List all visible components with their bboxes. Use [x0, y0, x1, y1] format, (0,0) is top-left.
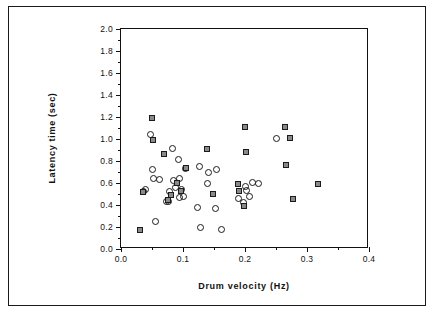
y-tick-label: 0.8 — [100, 156, 113, 166]
y-tick-mark — [116, 51, 121, 52]
data-point-circle — [218, 226, 225, 233]
data-point-circle — [273, 135, 280, 142]
y-tick-mark — [116, 73, 121, 74]
y-tick-mark — [116, 139, 121, 140]
data-point-square — [150, 137, 156, 143]
y-minor-tick-mark — [118, 172, 121, 173]
x-tick-label: 0.0 — [115, 254, 128, 264]
x-tick-mark — [183, 247, 184, 252]
data-point-square — [241, 203, 247, 209]
y-tick-mark — [116, 161, 121, 162]
data-point-circle — [246, 193, 253, 200]
figure-container: Latency time (sec) Drum velocity (Hz) 0.… — [0, 0, 434, 315]
data-point-square — [282, 124, 288, 130]
y-tick-mark — [116, 227, 121, 228]
data-point-circle — [213, 166, 220, 173]
data-point-circle — [175, 156, 182, 163]
data-point-circle — [194, 204, 201, 211]
data-point-square — [210, 191, 216, 197]
x-minor-tick-mark — [152, 247, 153, 250]
data-point-square — [168, 192, 174, 198]
data-point-square — [183, 165, 189, 171]
y-tick-mark — [116, 95, 121, 96]
data-point-circle — [205, 169, 212, 176]
x-tick-label: 0.1 — [177, 254, 190, 264]
data-point-square — [235, 181, 241, 187]
data-point-square — [137, 227, 143, 233]
x-minor-tick-mark — [214, 247, 215, 250]
data-point-square — [290, 196, 296, 202]
x-minor-tick-mark — [338, 247, 339, 250]
data-point-square — [283, 162, 289, 168]
y-tick-label: 0.0 — [100, 244, 113, 254]
y-tick-label: 1.8 — [100, 46, 113, 56]
x-tick-mark — [245, 247, 246, 252]
data-point-circle — [169, 145, 176, 152]
data-point-circle — [212, 205, 219, 212]
y-tick-label: 1.4 — [100, 90, 113, 100]
data-point-square — [161, 151, 167, 157]
y-minor-tick-mark — [118, 62, 121, 63]
y-tick-mark — [116, 183, 121, 184]
data-point-circle — [197, 224, 204, 231]
y-minor-tick-mark — [118, 84, 121, 85]
x-tick-label: 0.4 — [363, 254, 376, 264]
y-tick-label: 1.0 — [100, 134, 113, 144]
x-tick-mark — [121, 247, 122, 252]
y-tick-label: 1.2 — [100, 112, 113, 122]
y-tick-label: 2.0 — [100, 24, 113, 34]
data-point-square — [149, 115, 155, 121]
data-point-circle — [180, 193, 187, 200]
y-tick-mark — [116, 117, 121, 118]
y-axis-title: Latency time (sec) — [44, 28, 60, 248]
y-minor-tick-mark — [118, 216, 121, 217]
data-point-square — [243, 149, 249, 155]
x-tick-label: 0.3 — [301, 254, 314, 264]
x-minor-tick-mark — [276, 247, 277, 250]
data-point-square — [236, 188, 242, 194]
data-point-square — [140, 189, 146, 195]
x-tick-mark — [307, 247, 308, 252]
y-minor-tick-mark — [118, 106, 121, 107]
x-tick-mark — [369, 247, 370, 252]
y-minor-tick-mark — [118, 194, 121, 195]
y-minor-tick-mark — [118, 40, 121, 41]
data-point-square — [315, 181, 321, 187]
data-point-square — [204, 146, 210, 152]
data-point-circle — [255, 180, 262, 187]
data-point-circle — [204, 180, 211, 187]
y-tick-mark — [116, 205, 121, 206]
data-point-square — [287, 135, 293, 141]
x-tick-label: 0.2 — [239, 254, 252, 264]
data-point-circle — [196, 163, 203, 170]
data-point-square — [174, 180, 180, 186]
y-tick-label: 0.4 — [100, 200, 113, 210]
data-point-square — [242, 124, 248, 130]
y-minor-tick-mark — [118, 150, 121, 151]
plot-area: 0.00.20.40.60.81.01.21.41.61.82.00.00.10… — [120, 28, 368, 248]
data-point-circle — [149, 166, 156, 173]
y-tick-mark — [116, 29, 121, 30]
y-tick-label: 0.2 — [100, 222, 113, 232]
data-point-square — [178, 188, 184, 194]
y-minor-tick-mark — [118, 238, 121, 239]
data-point-circle — [152, 218, 159, 225]
x-axis-title: Drum velocity (Hz) — [120, 281, 368, 291]
y-tick-label: 0.6 — [100, 178, 113, 188]
data-point-circle — [156, 176, 163, 183]
y-tick-label: 1.6 — [100, 68, 113, 78]
y-minor-tick-mark — [118, 128, 121, 129]
